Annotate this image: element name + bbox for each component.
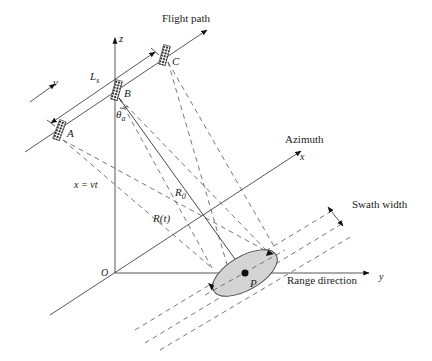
swath-width-dimension: [328, 207, 343, 226]
synthetic-length-label: Ls: [89, 70, 99, 85]
satellite-a-icon: [53, 120, 66, 141]
y-axis-label: y: [378, 271, 384, 282]
point-a-label: A: [66, 127, 74, 139]
target-label: P: [249, 277, 257, 289]
range-direction-label: Range direction: [287, 274, 357, 286]
flight-path-label: Flight path: [162, 12, 210, 24]
synthetic-length-dimension: [51, 52, 155, 123]
target-point-p: [242, 270, 249, 277]
point-c-label: C: [172, 55, 180, 67]
rt-label: R(t): [152, 212, 170, 225]
beam-angle-label: θa: [116, 108, 125, 123]
x-equals-vt-label: x = vt: [73, 179, 98, 190]
x-axis-label: x: [299, 151, 305, 162]
satellite-b-icon: [111, 80, 123, 101]
x-axis-azimuth: [50, 151, 301, 315]
velocity-label: v: [53, 76, 58, 88]
z-axis-label: z: [118, 32, 124, 44]
sar-geometry-diagram: Flight path z v Ls A B C θa Azimuth x x …: [0, 0, 432, 361]
origin-label: O: [101, 267, 108, 278]
slant-range-r0: [119, 98, 245, 273]
swath-width-label: Swath width: [352, 198, 408, 210]
azimuth-label: Azimuth: [285, 133, 324, 145]
point-b-label: B: [124, 87, 131, 99]
velocity-arrow: [30, 84, 55, 102]
